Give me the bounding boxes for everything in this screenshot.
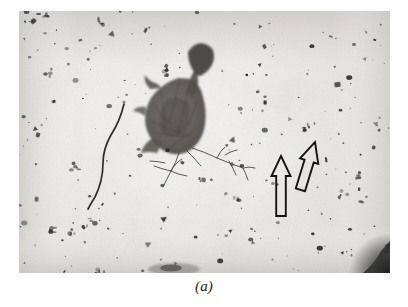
speckle-particle [365, 196, 367, 198]
speckle-particle [51, 231, 57, 233]
speckle-particle [46, 16, 49, 18]
speckle-particle [65, 47, 69, 50]
speckle-particle [224, 234, 228, 237]
speckle-particle [35, 197, 39, 202]
speckle-particle [42, 15, 46, 18]
speckle-particle [348, 228, 352, 231]
speckle-particle [263, 95, 266, 98]
speckle-particle [324, 111, 325, 112]
speckle-particle [106, 104, 112, 108]
speckle-particle [166, 73, 169, 77]
speckle-particle [125, 94, 128, 96]
dark-corner-wedge [349, 233, 390, 273]
speckle-particle [40, 124, 43, 126]
speckle-particle [268, 23, 270, 25]
speckle-particle [20, 226, 22, 227]
speckle-particle [228, 104, 229, 105]
speckle-particle [141, 269, 144, 272]
speckle-particle [69, 168, 74, 171]
speckle-particle [69, 232, 72, 237]
speckle-particle [50, 68, 52, 71]
speckle-particle [302, 130, 307, 132]
speckle-particle [179, 67, 181, 68]
speckle-particle [198, 177, 200, 180]
speckle-particle [48, 72, 53, 75]
speckle-particle [49, 226, 53, 230]
speckle-particle [317, 187, 319, 189]
speckle-particle [36, 13, 41, 15]
speckle-particle [21, 221, 27, 226]
speckle-particle [308, 125, 310, 128]
speckle-particle [298, 97, 300, 98]
speckle-particle [137, 148, 141, 151]
speckle-particle [166, 68, 168, 72]
speckle-particle [384, 63, 385, 64]
speckle-particle [262, 128, 268, 133]
speckle-particle [306, 73, 309, 75]
speckle-particle [70, 228, 73, 231]
speckle-particle [237, 197, 240, 202]
speckle-particle [200, 181, 202, 182]
speckle-particle [164, 26, 165, 27]
speckle-particle [311, 233, 314, 236]
speckle-particle [43, 32, 46, 35]
speckle-particle [307, 209, 309, 210]
speckle-particle [256, 91, 260, 94]
speckle-particle [276, 221, 280, 224]
speckle-particle [160, 184, 164, 187]
speckle-particle [118, 97, 119, 98]
speckle-particle [90, 69, 91, 70]
speckle-particle [265, 179, 267, 181]
speckle-particle [178, 53, 180, 54]
speckle-particle [298, 270, 299, 271]
speckle-particle [89, 50, 91, 51]
speckle-particle [330, 138, 331, 139]
micrograph-image [19, 11, 390, 273]
speckle-particle [217, 259, 223, 264]
speckle-particle [254, 230, 256, 232]
speckle-particle [339, 109, 343, 112]
speckle-particle [378, 117, 380, 119]
speckle-particle [345, 171, 347, 173]
speckle-particle [54, 43, 56, 45]
speckle-particle [73, 78, 79, 83]
figure-root: (a) [0, 0, 408, 307]
speckle-particle [302, 127, 306, 129]
speckle-particle [360, 122, 362, 124]
speckle-particle [380, 45, 381, 46]
speckle-particle [61, 239, 64, 241]
speckle-particle [98, 208, 100, 210]
speckle-particle [356, 174, 361, 176]
speckle-particle [73, 165, 77, 168]
speckle-particle [238, 107, 243, 111]
speckle-particle [352, 43, 356, 46]
speckle-particle [339, 189, 343, 193]
speckle-particle [335, 169, 336, 170]
speckle-particle [350, 83, 351, 84]
speckle-particle [194, 236, 198, 239]
speckle-particle [73, 232, 75, 235]
speckle-particle [325, 174, 327, 176]
speckle-particle [127, 133, 129, 134]
speckle-particle [22, 115, 26, 118]
speckle-particle [309, 44, 314, 48]
speckle-particle [317, 246, 323, 251]
speckle-particle [233, 196, 236, 200]
speckle-particle [360, 154, 362, 156]
speckle-particle [148, 27, 150, 29]
speckle-particle [116, 257, 118, 258]
speckle-particle [132, 11, 134, 12]
speckle-particle [233, 23, 235, 25]
speckle-particle [49, 74, 51, 78]
speckle-particle [36, 214, 37, 215]
speckle-particle [129, 175, 132, 177]
speckle-particle [98, 21, 101, 23]
speckle-particle [43, 72, 48, 76]
speckle-particle [349, 184, 350, 185]
speckle-particle [222, 254, 223, 255]
speckle-particle [240, 164, 244, 167]
speckle-particle [166, 148, 170, 152]
speckle-particle [338, 195, 341, 199]
speckle-particle [92, 221, 97, 226]
speckle-particle [358, 171, 361, 175]
